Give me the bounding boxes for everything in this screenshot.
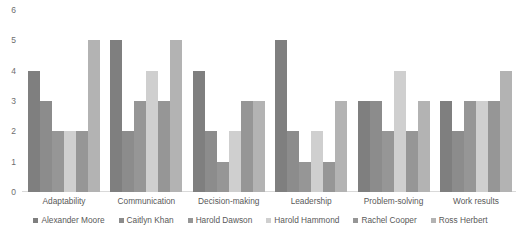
bar[interactable] <box>134 101 146 192</box>
bar[interactable] <box>205 131 217 192</box>
bar[interactable] <box>323 162 335 192</box>
y-axis: 0123456 <box>0 10 20 192</box>
bar[interactable] <box>382 131 394 192</box>
bar[interactable] <box>110 40 122 192</box>
category-axis-labels: AdaptabilityCommunicationDecision-making… <box>22 194 516 210</box>
bar[interactable] <box>440 101 452 192</box>
category-label: Communication <box>110 194 182 210</box>
bar[interactable] <box>28 71 40 192</box>
bar[interactable] <box>64 131 76 192</box>
bar[interactable] <box>358 101 370 192</box>
bar[interactable] <box>122 131 134 192</box>
legend-label: Rachel Cooper <box>361 216 416 224</box>
bar[interactable] <box>253 101 265 192</box>
legend-item[interactable]: Alexander Moore <box>33 216 104 224</box>
legend-label: Alexander Moore <box>41 216 104 224</box>
bar[interactable] <box>418 101 430 192</box>
bar-group <box>110 10 182 192</box>
bar[interactable] <box>217 162 229 192</box>
bar[interactable] <box>52 131 64 192</box>
bar[interactable] <box>158 101 170 192</box>
legend-swatch-icon <box>33 218 38 223</box>
legend-swatch-icon <box>353 218 358 223</box>
y-tick-label: 2 <box>11 127 16 136</box>
legend-swatch-icon <box>119 218 124 223</box>
legend-item[interactable]: Harold Hammond <box>266 216 339 224</box>
bar[interactable] <box>370 101 382 192</box>
legend-swatch-icon <box>266 218 271 223</box>
category-label: Adaptability <box>28 194 100 210</box>
bar[interactable] <box>452 131 464 192</box>
bar[interactable] <box>500 71 512 192</box>
legend-item[interactable]: Harold Dawson <box>188 216 253 224</box>
bar[interactable] <box>193 71 205 192</box>
category-label: Decision-making <box>193 194 265 210</box>
bar[interactable] <box>311 131 323 192</box>
bar-group <box>358 10 430 192</box>
legend-swatch-icon <box>431 218 436 223</box>
bar[interactable] <box>406 131 418 192</box>
bar-group <box>275 10 347 192</box>
legend-swatch-icon <box>188 218 193 223</box>
legend-label: Caitlyn Khan <box>127 216 174 224</box>
y-tick-label: 5 <box>11 36 16 45</box>
category-label: Work results <box>440 194 512 210</box>
bar[interactable] <box>287 131 299 192</box>
legend-item[interactable]: Ross Herbert <box>431 216 488 224</box>
bar[interactable] <box>476 101 488 192</box>
y-tick-label: 1 <box>11 157 16 166</box>
category-label: Leadership <box>275 194 347 210</box>
legend-label: Harold Dawson <box>196 216 253 224</box>
bar-group <box>440 10 512 192</box>
bar[interactable] <box>229 131 241 192</box>
bar[interactable] <box>394 71 406 192</box>
bar[interactable] <box>488 101 500 192</box>
legend-label: Harold Hammond <box>274 216 339 224</box>
bar[interactable] <box>146 71 158 192</box>
bar[interactable] <box>241 101 253 192</box>
bar-chart: 0123456 AdaptabilityCommunicationDecisio… <box>0 0 521 244</box>
plot-area <box>22 10 516 192</box>
y-tick-label: 0 <box>11 188 16 197</box>
category-label: Problem-solving <box>358 194 430 210</box>
bar[interactable] <box>275 40 287 192</box>
y-tick-label: 6 <box>11 6 16 15</box>
bar[interactable] <box>88 40 100 192</box>
y-tick-label: 3 <box>11 97 16 106</box>
bar-group <box>193 10 265 192</box>
bar[interactable] <box>76 131 88 192</box>
legend-item[interactable]: Rachel Cooper <box>353 216 416 224</box>
y-tick-label: 4 <box>11 66 16 75</box>
bar-groups <box>22 10 516 192</box>
legend: Alexander MooreCaitlyn KhanHarold Dawson… <box>0 216 521 224</box>
legend-label: Ross Herbert <box>439 216 488 224</box>
bar[interactable] <box>40 101 52 192</box>
bar[interactable] <box>170 40 182 192</box>
bar-group <box>28 10 100 192</box>
bar[interactable] <box>335 101 347 192</box>
bar[interactable] <box>299 162 311 192</box>
bar[interactable] <box>464 101 476 192</box>
legend-item[interactable]: Caitlyn Khan <box>119 216 174 224</box>
